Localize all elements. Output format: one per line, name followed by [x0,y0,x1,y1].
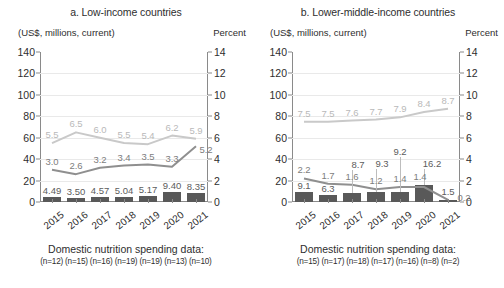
bar-value-label-2018: 9.3 [375,158,388,169]
y-axis-tick-label-a: 60 [23,132,35,144]
x-axis-label-2020: 2020 [413,209,437,231]
line-value-label-dark-2021: 0.2 [457,192,470,203]
y2-axis-tick-label-a: 4 [214,153,220,165]
bar-value-label-2018: 5.04 [115,185,134,196]
y-axis-tick-label-a: 100 [17,89,35,101]
y2-axis-tick-mark [208,52,212,53]
line-value-label-light-2016: 6.5 [69,118,82,129]
y-axis-tick-label-b: 140 [269,46,287,58]
line-value-label-light-2020: 6.2 [165,122,178,133]
y-axis-tick-label-a: 80 [23,110,35,122]
y-axis-tick-label-a: 140 [17,46,35,58]
y-axis-tick-label-b: 20 [275,175,287,187]
line-value-label-light-2020: 8.4 [417,98,430,109]
x-axis-label-2019: 2019 [389,209,413,231]
panel-b-title: b. Lower-middle-income countries [252,6,504,18]
x-axis-label-2017: 2017 [341,209,365,231]
line-value-label-dark-2017: 1.6 [345,171,358,182]
y2-axis-tick-label-a: 2 [214,175,220,187]
y2-axis-tick-label-a: 6 [214,132,220,144]
y2-axis-tick-mark [208,202,212,203]
x-axis-label-2019: 2019 [137,209,161,231]
x-axis-label-2016: 2016 [317,209,341,231]
y-axis-tick-label-b: 40 [275,153,287,165]
y-axis-tick-label-a: 120 [17,67,35,79]
bar-value-label-2015: 9.1 [297,180,310,191]
bar-value-label-2019: 5.17 [139,184,158,195]
x-axis-label-2017: 2017 [89,209,113,231]
x-axis-label-2020: 2020 [161,209,185,231]
bar-value-label-2021: 8.35 [187,181,206,192]
panel-a-y-axis-unit: (US$, millions, current) [18,27,115,38]
y2-axis-tick-label-a: 14 [214,46,226,58]
line-value-label-light-2017: 7.6 [345,107,358,118]
line-series-dark [40,52,208,202]
panel-a-plot-area: 0204060801001201400246810121420152016201… [40,52,208,202]
line-value-label-dark-2015: 3.0 [45,156,58,167]
panel-b-footer-title: Domestic nutrition spending data: [252,243,504,255]
line-value-label-dark-2020: 1.4 [413,171,426,182]
figure-two-panel-chart: a. Low-income countries (US$, millions, … [0,0,504,288]
panel-a-footer-sample-sizes: (n=12) (n=15) (n=16) (n=19) (n=19) (n=13… [0,257,252,266]
y-axis-tick-label-a: 40 [23,153,35,165]
x-axis-label-2015: 2015 [293,209,317,231]
line-value-label-dark-2018: 1.2 [369,175,382,186]
y2-axis-tick-mark [208,159,212,160]
panel-a-title: a. Low-income countries [0,6,252,18]
line-value-label-dark-2021: 5.2 [199,144,212,155]
y2-axis-tick-label-b: 2 [466,175,472,187]
bar-value-label-2021: 1.5 [441,186,454,197]
x-axis-label-2018: 2018 [113,209,137,231]
y2-axis-tick-label-a: 8 [214,110,220,122]
y2-axis-tick-mark [460,180,464,181]
panel-b-y2-axis-unit: Percent [465,27,498,38]
line-value-label-light-2015: 5.5 [45,129,58,140]
line-value-label-dark-2019: 1.4 [393,173,406,184]
line-value-label-dark-2015: 2.2 [297,164,310,175]
y-axis-tick-label-b: 0 [281,196,287,208]
line-value-label-light-2018: 7.7 [369,106,382,117]
y2-axis-tick-mark [460,116,464,117]
line-value-label-light-2017: 6.0 [93,124,106,135]
y2-axis-tick-label-b: 12 [466,67,478,79]
y2-axis-tick-label-b: 10 [466,89,478,101]
y2-axis-tick-mark [208,94,212,95]
line-value-label-dark-2016: 2.6 [69,160,82,171]
y-axis-tick-label-b: 60 [275,132,287,144]
bar-value-label-2015: 4.49 [43,185,62,196]
y-axis-tick-label-b: 120 [269,67,287,79]
y2-axis-tick-label-a: 12 [214,67,226,79]
line-value-label-light-2015: 7.5 [297,108,310,119]
y2-axis-tick-label-b: 8 [466,110,472,122]
line-value-label-light-2021: 5.9 [189,125,202,136]
line-value-label-light-2016: 7.5 [321,108,334,119]
y2-axis-tick-mark [208,73,212,74]
bar-value-label-2016: 3.50 [67,186,86,197]
panel-b-y-axis-unit: (US$, millions, current) [270,27,367,38]
x-axis-label-2021: 2021 [437,209,461,231]
line-value-label-light-2019: 7.9 [393,103,406,114]
panel-a-footer-title: Domestic nutrition spending data: [0,243,252,255]
line-value-label-dark-2019: 3.5 [141,151,154,162]
x-axis-label-2015: 2015 [41,209,65,231]
panel-lower-middle-income: b. Lower-middle-income countries (US$, m… [252,0,504,288]
y2-axis-tick-mark [208,116,212,117]
line-value-label-light-2018: 5.5 [117,129,130,140]
y2-axis-tick-label-b: 14 [466,46,478,58]
bar-value-label-2020: 9.40 [163,180,182,191]
bar-value-label-2020: 16.2 [423,158,442,169]
y-axis-tick-label-a: 0 [29,196,35,208]
panel-low-income: a. Low-income countries (US$, millions, … [0,0,252,288]
bar-value-label-2017: 4.57 [91,185,110,196]
x-axis-label-2018: 2018 [365,209,389,231]
line-value-label-dark-2020: 3.3 [165,153,178,164]
y2-axis-tick-mark [460,52,464,53]
y2-axis-tick-label-a: 10 [214,89,226,101]
line-value-label-dark-2017: 3.2 [93,154,106,165]
bar-value-label-2017: 8.7 [351,159,364,170]
bar-value-label-2019: 9.2 [393,146,406,157]
bar-value-label-2016: 6.3 [321,183,334,194]
y2-axis-tick-label-b: 4 [466,153,472,165]
y2-axis-tick-mark [460,94,464,95]
y-axis-tick-label-a: 20 [23,175,35,187]
